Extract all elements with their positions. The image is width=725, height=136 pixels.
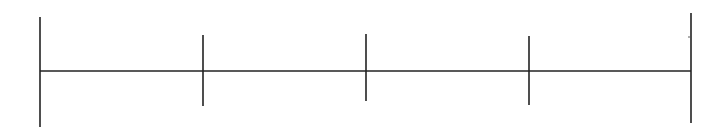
stray-dot-mark xyxy=(688,36,690,38)
number-line-diagram xyxy=(0,0,725,136)
